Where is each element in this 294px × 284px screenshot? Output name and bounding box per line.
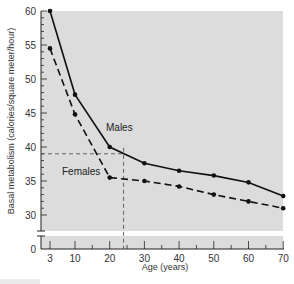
data-point	[48, 46, 53, 51]
data-point	[107, 175, 112, 180]
y-tick-label: 50	[25, 74, 37, 85]
data-point	[177, 184, 182, 189]
data-point	[142, 161, 147, 166]
females-label: Females	[62, 166, 100, 177]
x-tick-label: 70	[278, 253, 290, 264]
basal-metabolism-chart: 30354045505560 310203040506070 Males Fem…	[0, 0, 294, 284]
data-point	[73, 92, 78, 97]
x-tick-label: 50	[208, 253, 220, 264]
y-tick-label: 35	[25, 176, 37, 187]
y-axis-title: Basal metabolism (calories/square meter/…	[6, 28, 16, 215]
y-tick-label: 55	[25, 40, 37, 51]
y-tick-label-zero: 0	[30, 244, 36, 255]
x-axis-title: Age (years)	[142, 262, 189, 272]
x-tick-label: 3	[47, 253, 53, 264]
y-tick-label: 30	[25, 210, 37, 221]
data-point	[48, 9, 53, 14]
figure-caption-fragment	[0, 279, 40, 284]
data-point	[246, 180, 251, 185]
y-tick-label: 45	[25, 108, 37, 119]
plot-area-upper	[41, 11, 283, 231]
data-point	[212, 192, 217, 197]
data-point	[281, 194, 286, 199]
x-tick-label: 60	[243, 253, 255, 264]
data-point	[142, 179, 147, 184]
x-tick-label: 20	[104, 253, 116, 264]
x-tick-label: 10	[69, 253, 81, 264]
males-label: Males	[106, 122, 133, 133]
y-tick-label: 40	[25, 142, 37, 153]
data-point	[73, 112, 78, 117]
y-tick-label: 60	[25, 6, 37, 17]
data-point	[177, 169, 182, 174]
data-point	[212, 173, 217, 178]
data-point	[281, 206, 286, 211]
data-point	[246, 199, 251, 204]
data-point	[107, 145, 112, 150]
